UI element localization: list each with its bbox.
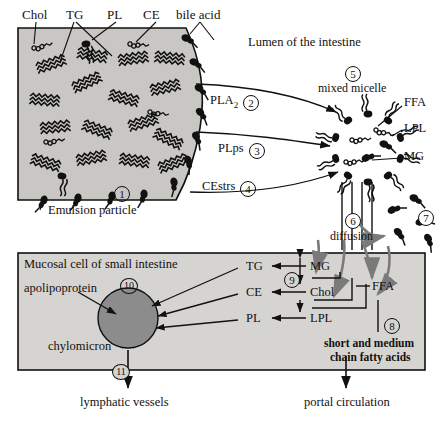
label-pl-cell: PL [246, 312, 261, 325]
step-9-number: 9 [289, 274, 295, 286]
chylomicron-label: chylomicron [48, 340, 111, 353]
emulsion-particle-shape [18, 28, 213, 214]
portal-circulation-label: portal circulation [304, 396, 390, 409]
step-5-number: 5 [350, 68, 356, 80]
step-11-number: 11 [116, 366, 126, 377]
step-2-badge: 2 [243, 95, 259, 111]
label-ffa-micelle: FFA [404, 96, 426, 109]
step-4-badge: 4 [240, 181, 256, 197]
label-tg: TG [66, 8, 83, 21]
step-11-badge: 11 [112, 364, 130, 380]
step-3-badge: 3 [249, 143, 265, 159]
lipid-digestion-figure: Chol TG PL CE bile acid Lumen of the int… [0, 0, 447, 426]
step-1-badge: 1 [114, 186, 130, 202]
lymphatic-vessels-label: lymphatic vessels [80, 396, 169, 409]
label-ce: CE [143, 8, 160, 21]
step-8-badge: 8 [384, 318, 400, 334]
step-3-number: 3 [254, 145, 260, 157]
enzyme-pla2-label: PLA [210, 93, 234, 107]
step-9-badge: 9 [284, 272, 300, 288]
step-6-badge: 6 [345, 213, 361, 229]
diffusion-label: diffusion [330, 230, 373, 242]
label-ce-cell: CE [246, 286, 262, 299]
label-pl: PL [107, 8, 122, 21]
step-2-number: 2 [248, 97, 254, 109]
step-1-number: 1 [119, 188, 125, 200]
label-lpl-cell: LPL [310, 312, 332, 325]
step-10-number: 10 [124, 280, 134, 291]
enzyme-pla2-subscript: 2 [234, 100, 239, 110]
short-chain-fatty-acids-line1: short and medium [324, 338, 414, 350]
step-8-number: 8 [389, 320, 395, 332]
label-tg-cell: TG [246, 260, 263, 273]
step-4-number: 4 [245, 183, 251, 195]
label-chol-cell: Chol [310, 286, 334, 299]
enzyme-cestrs: CEstrs [202, 180, 235, 193]
step-7-number: 7 [423, 212, 429, 224]
mixed-micelle-label: mixed micelle [318, 82, 386, 94]
emulsion-particle-label: Emulsion particle [48, 204, 137, 217]
apolipoprotein-label: apolipoprotein [24, 282, 97, 295]
mucosal-cell-title: Mucosal cell of small intestine [24, 258, 177, 271]
step-7-badge: 7 [418, 210, 434, 226]
label-ffa-cell: FFA [372, 280, 394, 293]
enzyme-pla2: PLA2 [210, 94, 238, 110]
lumen-label: Lumen of the intestine [248, 36, 361, 49]
label-mg-cell: MG [310, 260, 330, 273]
step-5-badge: 5 [345, 66, 361, 82]
label-bile-acid: bile acid [176, 8, 220, 21]
label-lpl-micelle: LPL [404, 122, 426, 135]
step-6-number: 6 [350, 215, 356, 227]
step-10-badge: 10 [120, 278, 138, 294]
short-chain-fatty-acids-line2: chain fatty acids [330, 352, 411, 364]
label-mg-micelle: MG [404, 150, 424, 163]
label-chol: Chol [22, 8, 47, 21]
enzyme-plps: PLps [218, 142, 244, 155]
